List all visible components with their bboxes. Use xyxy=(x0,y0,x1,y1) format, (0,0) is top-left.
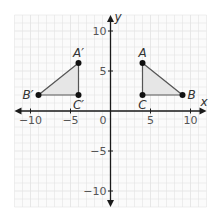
y-tick-label: −5 xyxy=(90,145,106,158)
y-tick-label: −10 xyxy=(83,185,106,198)
point-label: B xyxy=(188,88,196,102)
x-tick-label: 10 xyxy=(184,114,198,127)
coordinate-plane: xy −10−5510105−5−100 ABCA′B′C′ xyxy=(0,0,217,219)
x-tick-label: −5 xyxy=(62,114,78,127)
point-label: A′ xyxy=(72,46,84,60)
point-A xyxy=(140,60,146,66)
point-B xyxy=(180,92,186,98)
y-tick-label: 10 xyxy=(93,25,107,38)
x-tick-label: −10 xyxy=(19,114,42,127)
y-tick-label: 5 xyxy=(100,65,107,78)
x-tick-label: 5 xyxy=(147,114,154,127)
point-label: B′ xyxy=(23,88,34,102)
x-axis-label: x xyxy=(200,95,209,109)
point-A′ xyxy=(76,60,82,66)
point-B′ xyxy=(36,92,42,98)
y-axis-label: y xyxy=(114,10,123,24)
origin-label: 0 xyxy=(100,114,107,127)
point-label: A xyxy=(137,46,146,60)
point-label: C xyxy=(138,98,147,112)
point-label: C′ xyxy=(73,98,84,112)
